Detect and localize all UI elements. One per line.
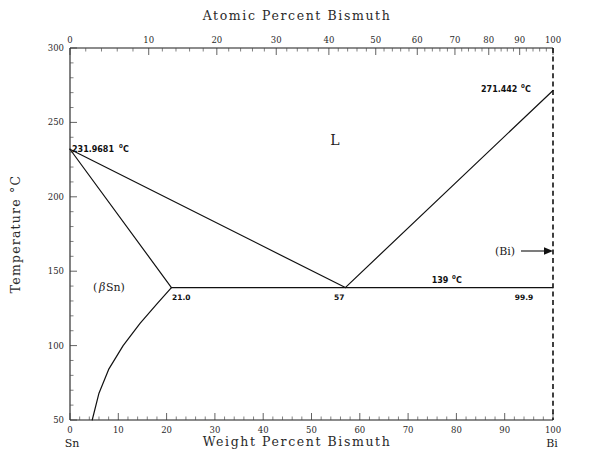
- left-tick-label: 50: [53, 415, 64, 425]
- top-tick-label: 0: [67, 35, 72, 45]
- left-tick-label: 300: [48, 43, 64, 53]
- bottom-tick-label: 70: [403, 425, 414, 435]
- left-axis-tick-labels: 50100150200250300: [48, 43, 64, 425]
- top-axis-ticks: [70, 48, 553, 55]
- top-axis-title: Atomic Percent Bismuth: [202, 8, 392, 23]
- top-tick-label: 80: [483, 35, 494, 45]
- top-tick-label: 100: [545, 35, 561, 45]
- sn-melting-point-unit: C: [123, 145, 129, 154]
- bi-terminal-composition-label: 99.9: [515, 293, 534, 302]
- phase-diagram-figure: 0102030405060708090100 01020304050607080…: [0, 0, 595, 459]
- bottom-tick-label: 90: [499, 425, 510, 435]
- beta-sn-suffix: Sn): [106, 281, 125, 294]
- liquid-phase-field-label: L: [330, 132, 339, 148]
- beta-sn-paren-open: (: [93, 281, 97, 294]
- top-tick-label: 90: [514, 35, 525, 45]
- bottom-tick-label: 20: [161, 425, 172, 435]
- top-tick-label: 60: [412, 35, 423, 45]
- annotation-sn-melting-point: 231.9681 0 C: [72, 143, 129, 154]
- top-tick-label: 50: [370, 35, 381, 45]
- top-tick-label: 40: [323, 35, 334, 45]
- phase-diagram-canvas: 0102030405060708090100 01020304050607080…: [0, 0, 595, 459]
- bottom-tick-label: 0: [67, 425, 72, 435]
- phase-boundary-curves: [70, 90, 553, 420]
- top-axis-tick-labels: 0102030405060708090100: [67, 35, 561, 45]
- sn-melting-point-value: 231.9681: [72, 145, 114, 154]
- beta-symbol: β: [98, 281, 105, 294]
- top-tick-label: 30: [271, 35, 282, 45]
- bi-phase-field-label-group: (Bi): [495, 245, 553, 258]
- bi-phase-field-label: (Bi): [495, 245, 515, 258]
- top-tick-label: 70: [450, 35, 461, 45]
- solvus-limit-composition-label: 21.0: [172, 293, 191, 302]
- beta-sn-phase-field-label: ( β Sn): [93, 281, 125, 294]
- eutectic-composition-label: 57: [334, 293, 344, 302]
- bottom-tick-label: 10: [113, 425, 124, 435]
- annotation-eutectic-temperature: 139 0 C: [432, 274, 462, 285]
- left-tick-label: 250: [48, 117, 64, 127]
- annotation-bi-melting-point: 271.442 0 C: [481, 83, 531, 94]
- left-tick-label: 150: [48, 266, 64, 276]
- left-tick-label: 100: [48, 341, 64, 351]
- top-tick-label: 20: [211, 35, 222, 45]
- curve-sn-rich-liquidus: [70, 149, 345, 287]
- bi-pointer-arrow-head: [544, 247, 553, 255]
- top-tick-label: 10: [143, 35, 154, 45]
- curve-beta-sn-solidus: [70, 149, 171, 287]
- bi-melting-point-unit: C: [525, 85, 531, 94]
- bi-melting-point-value: 271.442: [481, 85, 517, 94]
- right-endpoint-label: Bi: [546, 437, 558, 450]
- eutectic-temp-value: 139: [432, 276, 449, 285]
- eutectic-temp-unit: C: [456, 276, 462, 285]
- left-tick-label: 200: [48, 192, 64, 202]
- curve-bi-rich-liquidus: [345, 90, 553, 287]
- left-axis-ticks: [70, 48, 77, 420]
- bottom-tick-label: 80: [451, 425, 462, 435]
- bottom-axis-ticks: [70, 413, 553, 420]
- left-endpoint-label: Sn: [65, 437, 80, 450]
- bottom-tick-label: 100: [545, 425, 561, 435]
- left-axis-title: Temperature °C: [8, 175, 23, 293]
- curve-beta-sn-solvus: [92, 288, 171, 420]
- bottom-axis-title: Weight Percent Bismuth: [203, 434, 392, 449]
- plot-frame: [70, 48, 553, 420]
